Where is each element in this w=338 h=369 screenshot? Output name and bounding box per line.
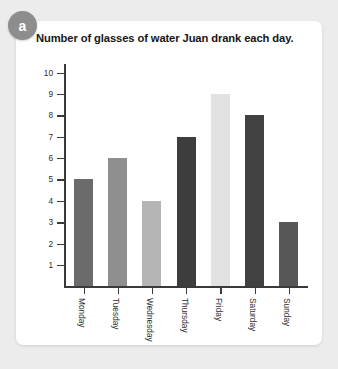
y-axis-tick: [57, 115, 64, 116]
x-axis-tick: [186, 288, 187, 294]
x-axis-tick: [289, 288, 290, 294]
x-axis-tick: [255, 288, 256, 294]
x-axis-tick: [220, 288, 221, 294]
y-axis-tick: [57, 137, 64, 138]
page-root: a Number of glasses of water Juan drank …: [0, 0, 338, 369]
bar: [279, 222, 298, 286]
x-axis-label: Thursday: [180, 298, 190, 333]
bar: [245, 115, 264, 286]
y-axis-tick: [57, 201, 64, 202]
x-axis-tick: [118, 288, 119, 294]
y-axis-tick: [57, 222, 64, 223]
x-axis-label: Saturday: [248, 298, 258, 331]
x-axis-tick: [152, 288, 153, 294]
bar: [211, 94, 230, 286]
y-axis-label: 8: [48, 110, 57, 120]
x-axis-label: Tuesday: [111, 298, 121, 330]
y-axis-label: 2: [48, 239, 57, 249]
y-axis-tick: [57, 265, 64, 266]
bar-chart: 12345678910 MondayTuesdayWednesdayThursd…: [36, 58, 308, 318]
bar: [142, 201, 161, 287]
y-axis-label: 7: [48, 132, 57, 142]
y-axis-tick: [57, 244, 64, 245]
bar-series: [66, 64, 308, 286]
question-letter-label: a: [19, 18, 27, 34]
x-axis-label: Monday: [77, 298, 87, 328]
y-axis-label: 1: [48, 260, 57, 270]
bar: [177, 137, 196, 287]
chart-title: Number of glasses of water Juan drank ea…: [36, 32, 293, 44]
y-axis-label: 9: [48, 89, 57, 99]
y-axis-tick: [57, 94, 64, 95]
y-axis-tick: [57, 73, 64, 74]
bar: [108, 158, 127, 286]
y-axis-label: 10: [44, 68, 57, 78]
y-axis-tick: [57, 158, 64, 159]
x-axis-label: Sunday: [282, 298, 292, 326]
x-axis-tick: [84, 288, 85, 294]
bar: [74, 179, 93, 286]
question-letter-badge: a: [8, 11, 37, 40]
y-axis-label: 6: [48, 153, 57, 163]
y-axis-label: 4: [48, 196, 57, 206]
x-axis-label: Friday: [214, 298, 224, 321]
y-axis-label: 5: [48, 174, 57, 184]
y-axis-label: 3: [48, 217, 57, 227]
x-axis-label: Wednesday: [145, 298, 155, 342]
y-axis-tick: [57, 179, 64, 180]
